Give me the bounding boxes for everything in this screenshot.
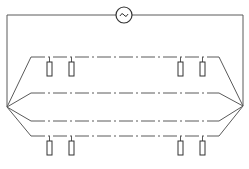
ac-source — [116, 7, 132, 23]
conductor-4-left-lead — [7, 107, 31, 136]
top-electrode-4 — [200, 62, 205, 76]
top-electrode-3 — [178, 62, 183, 76]
bottom-electrode-2 — [69, 141, 74, 155]
top-electrode-2 — [69, 62, 74, 76]
conductors — [7, 57, 243, 136]
electrodes — [47, 57, 205, 155]
conductor-4-right-lead — [219, 106, 243, 136]
frame-right-wire — [132, 15, 243, 106]
top-electrode-1 — [47, 62, 52, 76]
circuit-diagram — [0, 0, 249, 169]
bottom-electrode-1 — [47, 141, 52, 155]
bottom-electrode-3 — [178, 141, 183, 155]
circuit-diagram-svg — [0, 0, 249, 169]
bottom-electrode-4 — [200, 141, 205, 155]
conductor-1-right-lead — [219, 57, 243, 106]
conductor-3-left-lead — [7, 107, 31, 121]
conductor-3-right-lead — [219, 106, 243, 121]
